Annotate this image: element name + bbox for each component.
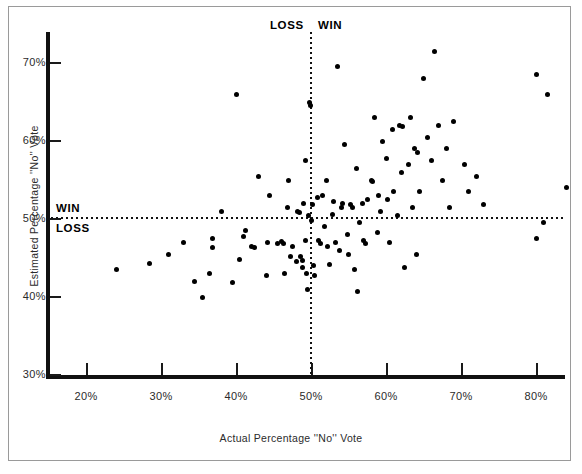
data-point — [265, 240, 270, 245]
data-point — [365, 197, 370, 202]
data-point — [318, 241, 323, 246]
data-point — [192, 279, 197, 284]
data-point — [541, 220, 546, 225]
data-point — [370, 179, 375, 184]
data-point — [357, 220, 362, 225]
plot-area: 30%40%50%60%70% 20%30%40%50%60%70%80% LO… — [0, 0, 582, 474]
data-point — [391, 189, 396, 194]
y-tick-label-wrap: 70% — [0, 56, 46, 70]
x-tick-label: 60% — [356, 390, 416, 402]
data-point — [315, 195, 320, 200]
data-point — [310, 202, 315, 207]
data-point — [264, 273, 269, 278]
data-point — [360, 201, 365, 206]
data-point — [447, 205, 452, 210]
data-point — [421, 76, 426, 81]
data-point — [400, 124, 405, 129]
data-point — [234, 92, 239, 97]
data-point — [335, 64, 340, 69]
data-point — [436, 123, 441, 128]
x-tick-label: 50% — [281, 390, 341, 402]
data-point — [415, 150, 420, 155]
data-point — [114, 267, 119, 272]
data-point — [285, 205, 290, 210]
data-point — [309, 218, 314, 223]
data-point — [354, 166, 359, 171]
data-point — [474, 174, 479, 179]
y-tick-60 — [50, 140, 61, 142]
data-point — [327, 262, 332, 267]
data-point — [444, 146, 449, 151]
data-point — [147, 261, 152, 266]
data-point — [451, 119, 456, 124]
data-point — [290, 244, 295, 249]
y-tick-40 — [50, 296, 61, 298]
y-tick-label-wrap: 30% — [0, 368, 46, 382]
data-point — [355, 289, 360, 294]
data-point — [320, 193, 325, 198]
reference-line-horizontal-50 — [46, 217, 565, 219]
data-point — [219, 209, 224, 214]
data-point — [376, 193, 381, 198]
data-point — [564, 185, 569, 190]
data-point — [210, 236, 215, 241]
x-tick-label: 20% — [56, 390, 116, 402]
data-point — [384, 156, 389, 161]
data-point — [304, 271, 309, 276]
data-point — [303, 238, 308, 243]
x-tick-label: 80% — [506, 390, 566, 402]
data-point — [375, 230, 380, 235]
x-axis-line — [46, 375, 565, 379]
data-point — [300, 265, 305, 270]
data-point — [337, 248, 342, 253]
y-axis-line — [46, 32, 50, 379]
data-point — [345, 232, 350, 237]
annotation-mid-win: WIN — [56, 202, 80, 214]
data-point — [408, 115, 413, 120]
x-axis-title: Actual Percentage ''No'' Vote — [0, 432, 582, 444]
data-point — [252, 245, 257, 250]
data-point — [312, 273, 317, 278]
data-point — [481, 202, 486, 207]
x-tick-label: 30% — [131, 390, 191, 402]
data-point — [181, 240, 186, 245]
x-tick-label: 40% — [206, 390, 266, 402]
x-tick-30 — [161, 363, 163, 375]
x-tick-label: 70% — [431, 390, 491, 402]
data-point — [346, 252, 351, 257]
data-point — [440, 178, 445, 183]
data-point — [352, 267, 357, 272]
data-point — [200, 295, 205, 300]
data-point — [281, 241, 286, 246]
annotation-top-win: WIN — [318, 19, 342, 31]
data-point — [331, 199, 336, 204]
data-point — [466, 189, 471, 194]
data-point — [534, 72, 539, 77]
data-point — [237, 257, 242, 262]
data-point — [294, 259, 299, 264]
data-point — [342, 142, 347, 147]
data-point — [308, 103, 313, 108]
data-point — [333, 240, 338, 245]
data-point — [305, 287, 310, 292]
data-point — [311, 263, 316, 268]
data-point — [417, 189, 422, 194]
scatter-plot-figure: 30%40%50%60%70% 20%30%40%50%60%70%80% LO… — [0, 0, 582, 474]
data-point — [406, 162, 411, 167]
x-tick-40 — [236, 363, 238, 375]
data-point — [300, 258, 305, 263]
data-point — [432, 49, 437, 54]
data-point — [306, 213, 311, 218]
data-point — [303, 158, 308, 163]
y-tick-label: 70% — [2, 56, 46, 68]
data-point — [282, 271, 287, 276]
data-point — [378, 209, 383, 214]
data-point — [425, 135, 430, 140]
data-point — [380, 139, 385, 144]
data-point — [286, 178, 291, 183]
data-point — [414, 252, 419, 257]
data-point — [301, 201, 306, 206]
data-point — [429, 158, 434, 163]
data-point — [330, 212, 335, 217]
data-point — [267, 193, 272, 198]
